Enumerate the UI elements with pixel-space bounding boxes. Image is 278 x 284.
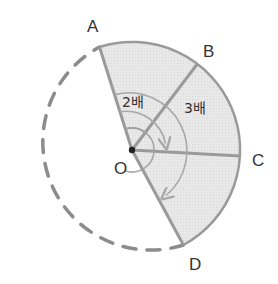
ratio-label-2x: 2배 [122, 94, 144, 110]
ratio-label-3x: 3배 [184, 100, 206, 116]
label-A: A [87, 17, 99, 36]
label-C: C [252, 151, 264, 170]
label-D: D [189, 255, 201, 274]
label-B: B [203, 42, 214, 61]
center-point-O [129, 147, 135, 153]
label-O: O [114, 159, 127, 178]
angle-diagram: A B C D O 2배 3배 [0, 0, 278, 284]
